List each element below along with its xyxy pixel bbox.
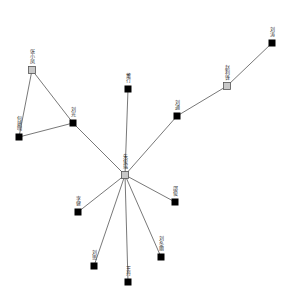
- node-label: 张小凤: [29, 49, 35, 64]
- node-label: 何建明: [16, 116, 22, 131]
- node-label: 王丹: [125, 266, 131, 276]
- graph-node[interactable]: [172, 199, 179, 206]
- edge: [19, 123, 73, 137]
- edge: [94, 175, 125, 266]
- graph-node[interactable]: [224, 83, 231, 90]
- node-label: 刘思: [91, 250, 97, 260]
- node-label: 邵俊: [172, 186, 178, 196]
- edge: [227, 43, 272, 86]
- graph-node[interactable]: [174, 113, 181, 120]
- edge: [78, 175, 125, 212]
- edge: [125, 175, 175, 202]
- node-label: 刘冬丽: [158, 236, 164, 251]
- node-label: 朱俊瑞: [122, 154, 128, 169]
- node-label: 刘通: [174, 100, 180, 110]
- graph-node[interactable]: [125, 279, 132, 286]
- graph-node[interactable]: [125, 86, 132, 93]
- graph-node[interactable]: [91, 263, 98, 270]
- node-label: 董行: [125, 73, 131, 83]
- network-graph: [0, 0, 292, 298]
- graph-node[interactable]: [158, 254, 165, 261]
- edge: [125, 175, 161, 257]
- graph-node[interactable]: [70, 120, 77, 127]
- edge: [177, 86, 227, 116]
- node-label: 赵利锋: [224, 65, 230, 80]
- edge: [73, 123, 125, 175]
- edge: [32, 70, 73, 123]
- node-label: 李健: [75, 196, 81, 206]
- node-label: 刘光: [70, 107, 76, 117]
- graph-node[interactable]: [75, 209, 82, 216]
- edge: [125, 116, 177, 175]
- graph-node[interactable]: [16, 134, 23, 141]
- node-label: 刘涛: [269, 27, 275, 37]
- graph-node[interactable]: [269, 40, 276, 47]
- edges-layer: [19, 43, 272, 282]
- graph-node[interactable]: [29, 67, 36, 74]
- graph-node[interactable]: [122, 172, 129, 179]
